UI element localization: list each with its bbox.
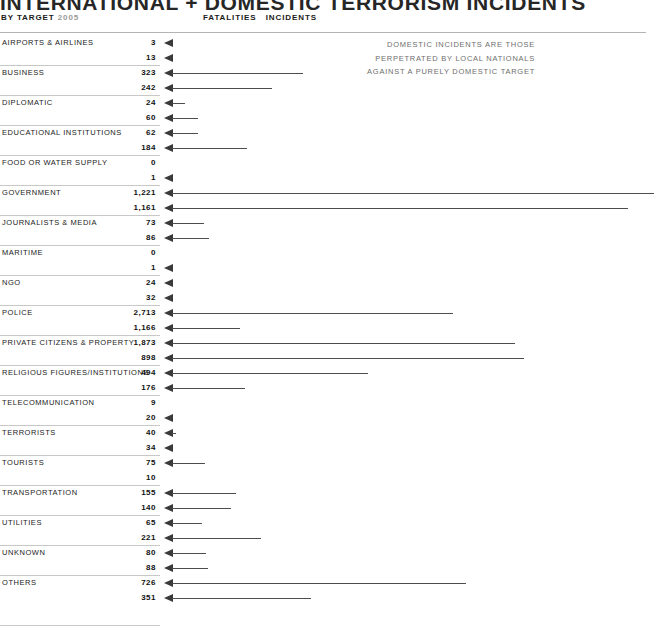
incidents-value: 60 — [0, 113, 156, 122]
bar-arrow — [164, 54, 173, 63]
bar-arrow — [164, 384, 246, 393]
chart-row: 10 — [0, 470, 646, 485]
bar-shaft — [172, 598, 311, 599]
chart-row: TELECOMMUNICATION9 — [0, 395, 646, 410]
bar-arrow — [164, 174, 173, 183]
chart-row: 88 — [0, 560, 646, 575]
fatalities-value: 9 — [0, 398, 156, 407]
fatalities-value: 24 — [0, 278, 156, 287]
column-headers: FATALITIES INCIDENTS — [203, 13, 323, 22]
bar-shaft — [172, 343, 515, 344]
chart-row: 32 — [0, 290, 646, 305]
bar-arrow — [164, 459, 206, 468]
bar-shaft — [172, 118, 198, 119]
fatalities-value: 1,873 — [0, 338, 156, 347]
bar-arrow — [164, 534, 262, 543]
bar-arrow — [164, 369, 369, 378]
incidents-value: 34 — [0, 443, 156, 452]
bar-shaft — [172, 373, 368, 374]
chart-row: GOVERNMENT1,221 — [0, 185, 646, 200]
category-group: TOURISTS7510 — [0, 455, 646, 485]
category-group: OTHERS726351 — [0, 575, 646, 605]
incidents-value: 86 — [0, 233, 156, 242]
bar-shaft — [172, 463, 205, 464]
bar-arrow — [164, 129, 199, 138]
bar-shaft — [172, 358, 524, 359]
chart-row: 221 — [0, 530, 646, 545]
chart-rows: AIRPORTS & AIRLINES313BUSINESS323242DIPL… — [0, 35, 646, 605]
incidents-value: 351 — [0, 593, 156, 602]
bar-shaft — [172, 388, 245, 389]
incidents-value: 184 — [0, 143, 156, 152]
bar-arrow — [164, 69, 304, 78]
chart-row: EDUCATIONAL INSTITUTIONS62 — [0, 125, 646, 140]
bar-shaft — [172, 313, 453, 314]
fatalities-value: 726 — [0, 578, 156, 587]
chart-row: UTILITIES65 — [0, 515, 646, 530]
category-group: POLICE2,7131,166 — [0, 305, 646, 335]
arrow-head-icon — [164, 414, 173, 422]
chart-row: TOURISTS75 — [0, 455, 646, 470]
bar-arrow — [164, 144, 248, 153]
incidents-value: 1 — [0, 263, 156, 272]
fatalities-value: 0 — [0, 248, 156, 257]
category-group: UNKNOWN8088 — [0, 545, 646, 575]
column-header-fatalities: FATALITIES — [203, 13, 257, 22]
chart-row: FOOD OR WATER SUPPLY0 — [0, 155, 646, 170]
bar-arrow — [164, 39, 173, 48]
bar-shaft — [172, 493, 236, 494]
chart-row: AIRPORTS & AIRLINES3 — [0, 35, 646, 50]
arrow-head-icon — [164, 264, 173, 272]
bar-arrow — [164, 489, 237, 498]
bar-arrow — [164, 339, 516, 348]
chart-row: 351 — [0, 590, 646, 605]
fatalities-value: 155 — [0, 488, 156, 497]
fatalities-value: 40 — [0, 428, 156, 437]
bar-arrow — [164, 549, 207, 558]
fatalities-value: 1,221 — [0, 188, 156, 197]
chart-row: 34 — [0, 440, 646, 455]
bar-arrow — [164, 429, 177, 438]
bar-arrow — [164, 264, 173, 273]
chart-row: DIPLOMATIC24 — [0, 95, 646, 110]
incidents-value: 10 — [0, 473, 156, 482]
bar-arrow — [164, 279, 173, 288]
incidents-value: 88 — [0, 563, 156, 572]
fatalities-value: 2,713 — [0, 308, 156, 317]
incidents-value: 140 — [0, 503, 156, 512]
bar-arrow — [164, 204, 629, 213]
chart-row: 13 — [0, 50, 646, 65]
category-group: NGO2432 — [0, 275, 646, 305]
fatalities-value: 62 — [0, 128, 156, 137]
category-group: RELIGIOUS FIGURES/INSTITUTIONS494176 — [0, 365, 646, 395]
header-divider — [0, 32, 646, 33]
bar-arrow — [164, 414, 173, 423]
bar-arrow — [164, 324, 241, 333]
fatalities-value: 24 — [0, 98, 156, 107]
bar-shaft — [172, 73, 303, 74]
bar-arrow — [164, 564, 209, 573]
incidents-value: 242 — [0, 83, 156, 92]
bar-arrow — [164, 114, 199, 123]
bar-arrow — [164, 594, 312, 603]
chart-row: 898 — [0, 350, 646, 365]
arrow-head-icon — [164, 279, 173, 287]
incidents-value: 898 — [0, 353, 156, 362]
arrow-head-icon — [164, 39, 173, 47]
chart-row: UNKNOWN80 — [0, 545, 646, 560]
chart-row: 140 — [0, 500, 646, 515]
bar-shaft — [172, 553, 206, 554]
chart-row: 1,166 — [0, 320, 646, 335]
bar-arrow — [164, 219, 205, 228]
bar-arrow — [164, 84, 273, 93]
subtitle-label: BY TARGET — [1, 13, 55, 22]
bar-shaft — [172, 433, 176, 434]
category-group: FOOD OR WATER SUPPLY01 — [0, 155, 646, 185]
incidents-value: 32 — [0, 293, 156, 302]
bar-arrow — [164, 189, 655, 198]
chart-row: TERRORISTS40 — [0, 425, 646, 440]
fatalities-value: 73 — [0, 218, 156, 227]
bar-shaft — [172, 148, 247, 149]
chart-row: 20 — [0, 410, 646, 425]
chart-row: 86 — [0, 230, 646, 245]
